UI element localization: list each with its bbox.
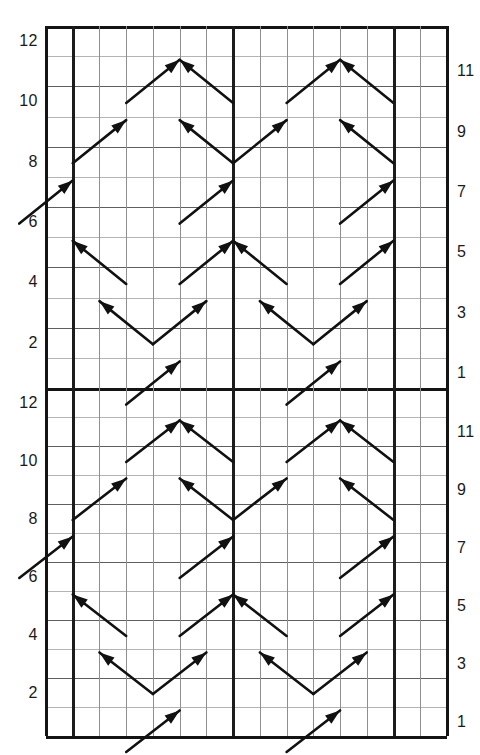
row-label-right: 3 [457,656,480,672]
grid-line-horizontal [46,504,447,505]
row-label-left: 4 [8,274,38,290]
row-label-right: 11 [457,63,480,79]
grid-border-vertical [446,26,449,736]
grid-background [46,26,447,736]
grid-line-vertical [206,26,207,736]
grid-line-vertical [126,26,127,736]
repeat-separator-line [46,388,447,391]
grid-line-horizontal [46,328,447,329]
row-label-right: 3 [457,305,480,321]
row-label-right: 11 [457,424,480,440]
grid-line-vertical [313,26,314,736]
row-label-right: 5 [457,598,480,614]
grid-line-horizontal [46,56,447,57]
grid-line-horizontal [46,649,447,650]
grid-line-horizontal [46,86,447,87]
grid-line-vertical [99,26,100,736]
row-label-left: 12 [8,33,38,49]
row-label-right: 9 [457,482,480,498]
grid-line-horizontal [46,533,447,534]
row-label-right: 9 [457,124,480,140]
grid-line-horizontal [46,417,447,418]
row-label-right: 7 [457,540,480,556]
grid-line-horizontal [46,475,447,476]
grid-border-vertical [45,26,48,736]
grid-border-horizontal [46,26,447,29]
repeat-marker-line [72,26,75,736]
row-label-left: 8 [8,154,38,170]
grid-line-vertical [420,26,421,736]
row-label-left: 2 [8,335,38,351]
grid-line-horizontal [46,237,447,238]
grid-line-vertical [287,26,288,736]
grid-line-horizontal [46,207,447,208]
grid-border-horizontal [46,736,447,739]
row-label-left: 8 [8,511,38,527]
grid-line-vertical [180,26,181,736]
grid-line-horizontal [46,591,447,592]
grid-line-horizontal [46,707,447,708]
grid-line-horizontal [46,267,447,268]
grid-line-vertical [260,26,261,736]
row-label-left: 4 [8,627,38,643]
grid-line-horizontal [46,147,447,148]
grid-line-vertical [340,26,341,736]
row-label-left: 6 [8,569,38,585]
grid-line-vertical [367,26,368,736]
grid-line-horizontal [46,678,447,679]
row-label-right: 1 [457,714,480,730]
knitting-cable-chart: 121086421197531121086421197531 [0,0,480,755]
grid-line-horizontal [46,177,447,178]
row-label-right: 5 [457,244,480,260]
row-label-left: 12 [8,395,38,411]
row-label-left: 2 [8,685,38,701]
repeat-marker-line [393,26,396,736]
grid-line-horizontal [46,620,447,621]
row-label-right: 7 [457,184,480,200]
row-label-left: 10 [8,453,38,469]
grid-line-horizontal [46,298,447,299]
row-label-left: 10 [8,93,38,109]
grid-line-horizontal [46,358,447,359]
grid-line-horizontal [46,446,447,447]
row-label-right: 1 [457,365,480,381]
grid-line-vertical [153,26,154,736]
row-label-left: 6 [8,214,38,230]
grid-line-horizontal [46,562,447,563]
repeat-marker-line [232,26,235,736]
grid-line-horizontal [46,117,447,118]
